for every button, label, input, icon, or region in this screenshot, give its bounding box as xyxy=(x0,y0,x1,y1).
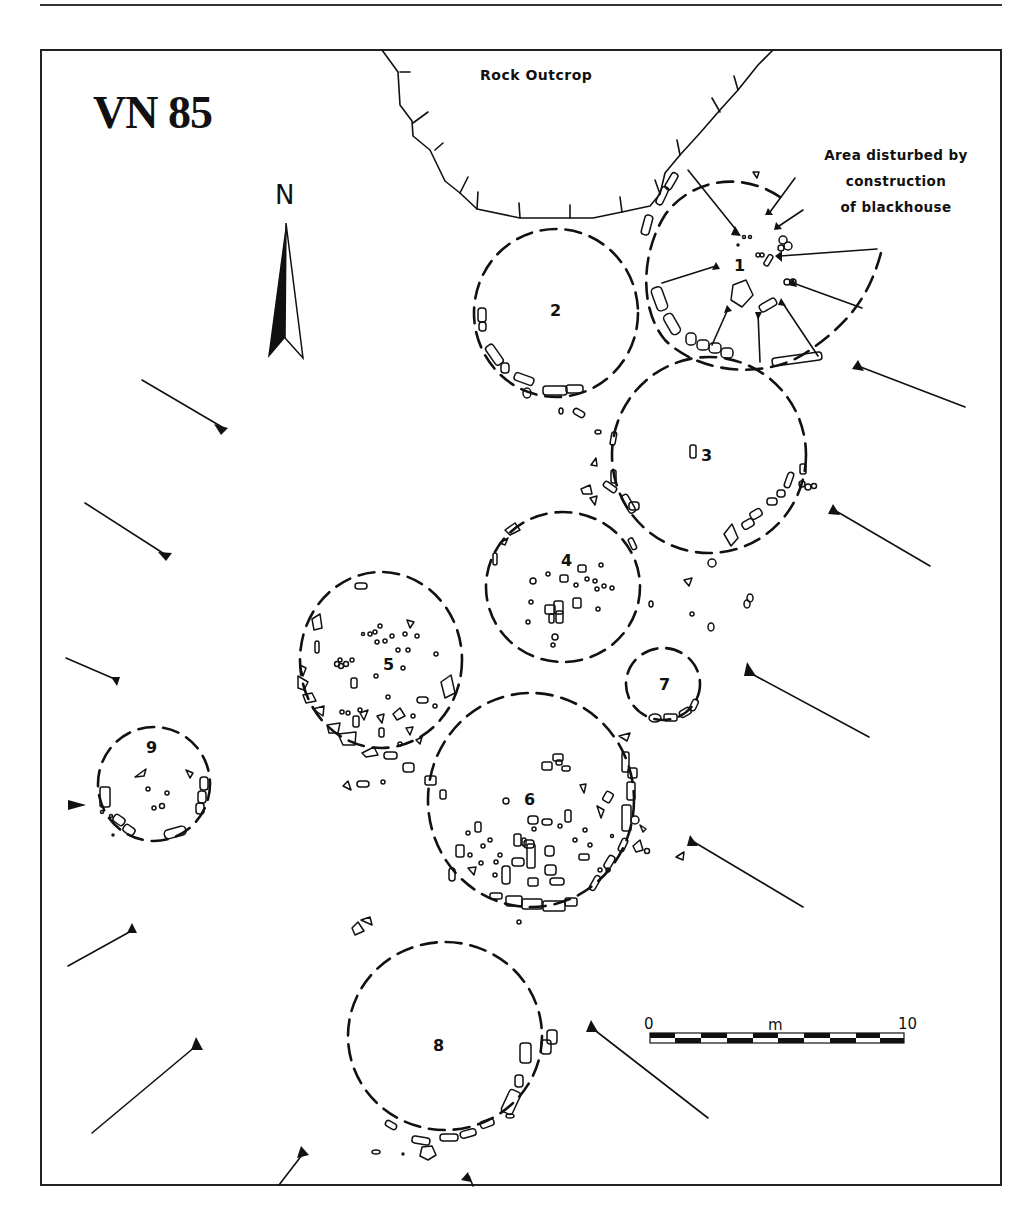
hut-label-8: 8 xyxy=(433,1036,444,1055)
hut-label-5: 5 xyxy=(383,655,394,674)
scale-start-label: 0 xyxy=(644,1015,654,1033)
north-label: N xyxy=(275,180,294,210)
scale-end-label: 10 xyxy=(898,1015,917,1033)
scale-bar xyxy=(650,1033,904,1043)
rock-outcrop-label: Rock Outcrop xyxy=(480,67,592,83)
hut-label-4: 4 xyxy=(561,551,572,570)
hut-label-9: 9 xyxy=(146,738,157,757)
hut-label-3: 3 xyxy=(701,446,712,465)
hut-label-6: 6 xyxy=(524,790,535,809)
figure-title: VN 85 xyxy=(93,86,212,139)
hut-label-1: 1 xyxy=(734,256,745,275)
annotation-line: of blackhouse xyxy=(796,194,996,220)
disturbance-annotation: Area disturbed by construction of blackh… xyxy=(796,142,996,220)
annotation-line: construction xyxy=(796,168,996,194)
annotation-line: Area disturbed by xyxy=(796,142,996,168)
hut-label-7: 7 xyxy=(659,675,670,694)
scale-unit-label: m xyxy=(768,1016,783,1034)
hut-label-2: 2 xyxy=(550,301,561,320)
hut-8-ring xyxy=(348,942,542,1130)
north-arrow-icon xyxy=(268,223,303,358)
